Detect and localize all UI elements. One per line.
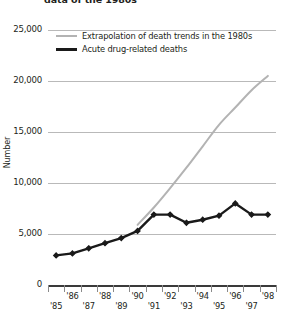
data-point-marker [265,212,270,217]
data-point-marker [54,253,59,258]
plot-area [0,0,281,318]
chart-container: data of the 1980s Extrapolation of death… [0,0,281,318]
data-point-marker [200,217,205,222]
series-line-extrapolation [138,76,268,225]
